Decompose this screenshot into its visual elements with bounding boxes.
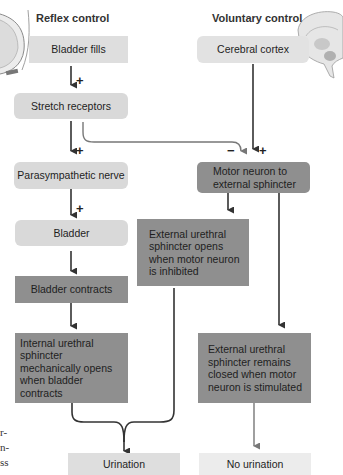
box-external-closed: External urethral sphincter remains clos… (198, 333, 311, 403)
margin-text-fragments: r- n- ss (0, 425, 9, 470)
plus-sign-receptors-to-nerve: + (76, 143, 84, 158)
box-bladder-fills: Bladder fills (29, 36, 128, 63)
margin-fragment: r- (0, 425, 9, 440)
plus-sign-cortex-to-motor: + (259, 143, 267, 158)
plus-sign-fills-to-receptors: + (76, 73, 84, 88)
box-motor-neuron-label: Motor neuron to external sphincter (213, 165, 302, 190)
box-internal-sphincter: Internal urethral sphincter mechanically… (15, 333, 128, 403)
box-no-urination: No urination (199, 453, 311, 475)
box-urination: Urination (68, 453, 180, 475)
box-bladder-label: Bladder (53, 227, 89, 240)
box-bladder-contracts-label: Bladder contracts (31, 283, 113, 296)
box-bladder-fills-label: Bladder fills (51, 43, 105, 56)
box-external-opens: External urethral sphincter opens when m… (137, 219, 249, 286)
box-no-urination-label: No urination (227, 458, 284, 471)
box-cerebral-cortex: Cerebral cortex (197, 36, 309, 63)
box-internal-sphincter-label: Internal urethral sphincter mechanically… (20, 337, 124, 400)
margin-fragment: n- (0, 440, 9, 455)
box-external-closed-label: External urethral sphincter remains clos… (208, 343, 307, 393)
box-motor-neuron: Motor neuron to external sphincter (197, 162, 310, 193)
box-stretch-receptors: Stretch receptors (14, 93, 128, 119)
box-external-opens-label: External urethral sphincter opens when m… (149, 228, 243, 278)
plus-sign-nerve-to-bladder: + (76, 201, 84, 216)
box-parasympathetic-nerve-label: Parasympathetic nerve (17, 169, 124, 182)
box-urination-label: Urination (103, 458, 145, 471)
box-bladder-contracts: Bladder contracts (15, 276, 128, 303)
margin-fragment: ss (0, 455, 9, 470)
box-parasympathetic-nerve: Parasympathetic nerve (14, 162, 128, 189)
minus-sign-inhibition: − (227, 143, 235, 158)
box-stretch-receptors-label: Stretch receptors (31, 100, 111, 113)
box-cerebral-cortex-label: Cerebral cortex (217, 43, 289, 56)
box-bladder: Bladder (15, 220, 128, 246)
